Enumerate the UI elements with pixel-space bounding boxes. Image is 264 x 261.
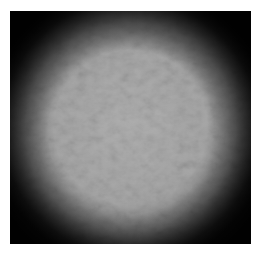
vignette-overlay [10,11,251,244]
micrograph-image [10,11,251,244]
